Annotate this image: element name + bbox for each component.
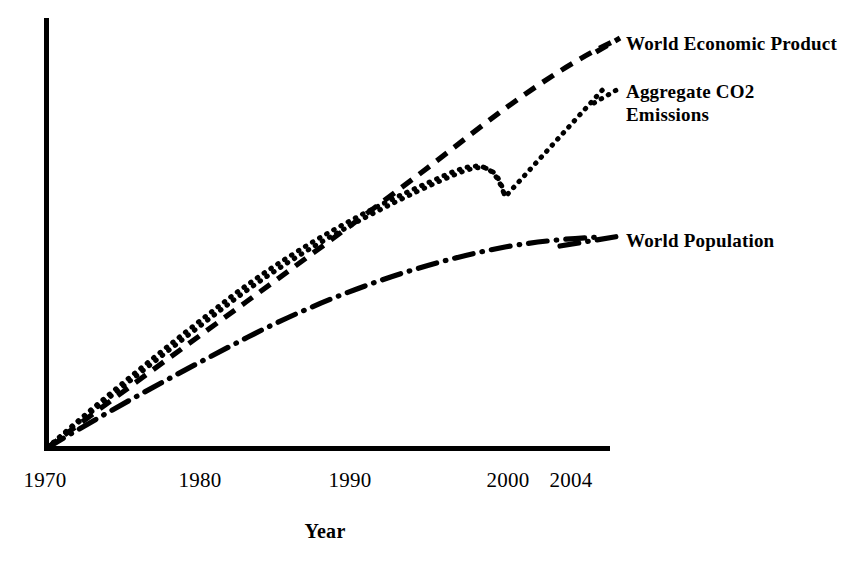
x-tick-label-1990: 1990 — [310, 470, 390, 491]
legend-label-world-economic-product: World Economic Product — [626, 32, 837, 55]
x-tick-label-1970: 1970 — [5, 470, 85, 491]
legend-label-aggregate-co2-emissions: Aggregate CO2 Emissions — [626, 80, 754, 126]
x-tick-label-2004: 2004 — [531, 470, 611, 491]
series-line-aggregate-co2-emissions — [47, 85, 607, 448]
x-axis-title: Year — [265, 521, 385, 541]
series-line-world-population — [47, 237, 600, 448]
x-tick-label-1980: 1980 — [160, 470, 240, 491]
legend-label-world-population: World Population — [626, 229, 774, 252]
chart-figure: 1970 1980 1990 2000 2004 Year World Econ… — [0, 0, 855, 567]
